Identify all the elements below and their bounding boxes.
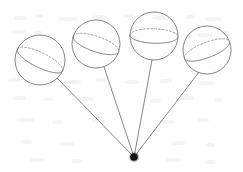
vertex-point (130, 153, 137, 160)
sphere-3-outline (130, 12, 178, 60)
spheres-diagram (0, 0, 243, 172)
figure-canvas (0, 0, 243, 172)
ray-3 (134, 60, 152, 157)
sphere-1 (15, 35, 65, 85)
sphere-2 (72, 20, 120, 68)
sphere-2-great-circle-back (73, 33, 119, 51)
ray-2 (104, 67, 134, 157)
sphere-3-great-circle-back (130, 29, 178, 37)
sphere-3 (130, 12, 178, 60)
ray-1 (57, 78, 134, 157)
sphere-2-great-circle-front (73, 36, 119, 54)
vertex-group (129, 152, 139, 162)
sphere-4-great-circle-front (185, 41, 230, 61)
sphere-1-outline (15, 35, 65, 85)
sphere-4 (183, 26, 231, 74)
ray-4 (134, 72, 199, 157)
ray-group (57, 60, 199, 157)
sphere-4-great-circle-back (184, 39, 229, 59)
sphere-group (15, 12, 231, 85)
sphere-3-great-circle-front (130, 35, 178, 43)
